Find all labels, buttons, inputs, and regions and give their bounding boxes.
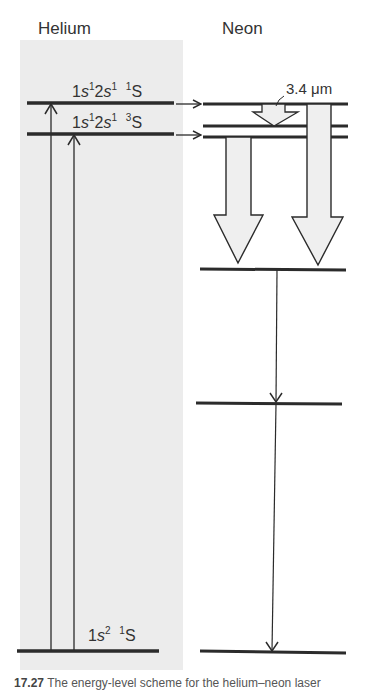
- ne-level-lower-2: [196, 403, 342, 404]
- laser-arrow-632-8-nm: [292, 104, 343, 265]
- decay-arrow-1: [276, 270, 277, 402]
- decay-arrow-2: [272, 404, 276, 651]
- figure-caption: 17.27 The energy-level scheme for the he…: [14, 676, 321, 690]
- caption-text: The energy-level scheme for the helium–n…: [47, 676, 320, 690]
- ne-level-ground: [200, 651, 346, 653]
- ne-level-lower-1: [200, 269, 346, 270]
- caption-number: 17.27: [14, 676, 44, 690]
- laser-arrow-1-2-um: [214, 137, 263, 263]
- laser-arrow-3-4-um: [253, 104, 298, 126]
